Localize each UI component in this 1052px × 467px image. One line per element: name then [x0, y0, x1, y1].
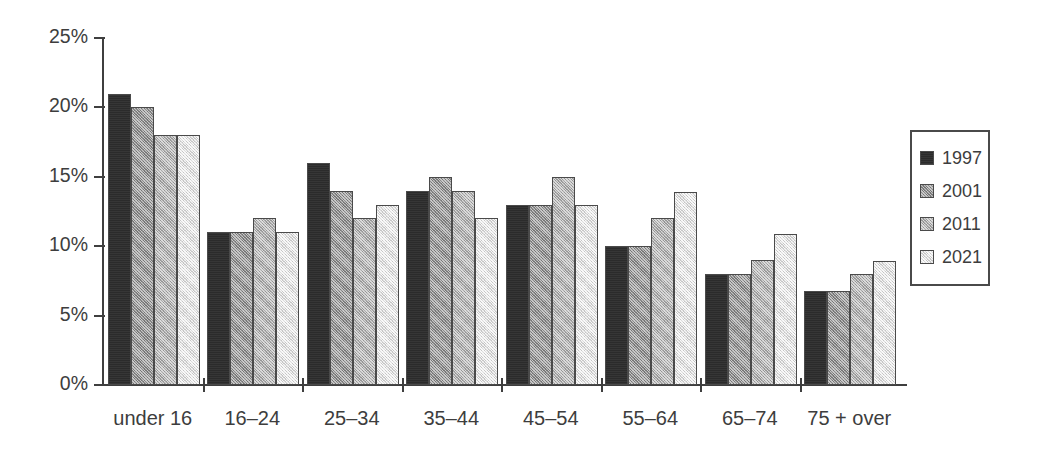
bar	[330, 191, 353, 385]
y-axis-tick-label: 5%	[0, 303, 88, 326]
bar	[575, 205, 598, 385]
legend-item: 2011	[920, 207, 988, 240]
bar	[873, 261, 896, 385]
legend-swatch	[920, 217, 934, 231]
bar	[529, 205, 552, 385]
bar-group	[705, 38, 797, 385]
bar	[131, 107, 154, 385]
bar-group	[108, 38, 200, 385]
bar-group	[804, 38, 896, 385]
legend-label: 2001	[942, 182, 982, 200]
bar	[108, 94, 131, 385]
legend-label: 2011	[942, 215, 981, 233]
y-axis-tick-label: 20%	[0, 94, 88, 117]
bar	[475, 218, 498, 385]
bar	[452, 191, 475, 385]
y-axis-tick-label: 0%	[0, 372, 88, 395]
bar	[651, 218, 674, 385]
bar	[177, 135, 200, 385]
bar	[674, 192, 697, 385]
legend-swatch	[920, 151, 934, 165]
bar	[406, 191, 429, 385]
bar-group	[307, 38, 399, 385]
legend-item: 2021	[920, 240, 988, 273]
bar	[605, 246, 628, 385]
bar	[307, 163, 330, 385]
bar	[230, 232, 253, 385]
bar	[751, 260, 774, 385]
legend-swatch	[920, 184, 934, 198]
bar	[628, 246, 651, 385]
bar	[728, 274, 751, 385]
bar	[774, 234, 797, 385]
y-axis-tick-label: 25%	[0, 25, 88, 48]
bar	[506, 205, 529, 385]
bar	[850, 274, 873, 385]
bar-group	[605, 38, 697, 385]
bar	[804, 291, 827, 385]
x-axis-category-label: 75 + over	[790, 407, 910, 430]
y-axis-tick-label: 10%	[0, 233, 88, 256]
legend-item: 2001	[920, 174, 988, 207]
bar	[705, 274, 728, 385]
bar	[552, 177, 575, 385]
bar	[276, 232, 299, 385]
bar	[429, 177, 452, 385]
bar-group	[506, 38, 598, 385]
bar-group	[207, 38, 299, 385]
bar	[353, 218, 376, 385]
legend-label: 2021	[942, 248, 982, 266]
bar-group	[406, 38, 498, 385]
legend-label: 1997	[942, 149, 982, 167]
bar-chart: 0%5%10%15%20%25% under 1616–2425–3435–44…	[0, 0, 1052, 467]
bar	[827, 291, 850, 385]
plot-area	[103, 38, 899, 385]
bar	[253, 218, 276, 385]
bar	[376, 205, 399, 385]
chart-legend: 1997200120112021	[910, 130, 990, 286]
legend-swatch	[920, 250, 934, 264]
y-axis-tick-label: 15%	[0, 164, 88, 187]
legend-item: 1997	[920, 141, 988, 174]
bar	[207, 232, 230, 385]
bar	[154, 135, 177, 385]
